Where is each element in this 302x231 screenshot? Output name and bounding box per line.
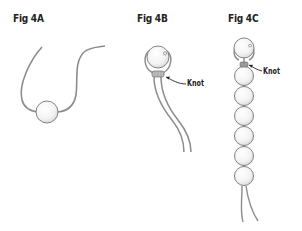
bead-icon xyxy=(36,101,58,123)
cord-strand xyxy=(241,186,243,222)
cord-strand xyxy=(154,77,184,152)
knot-icon xyxy=(240,62,248,67)
bead-icon xyxy=(235,87,254,106)
bead-icon xyxy=(147,46,169,68)
fig-4b-drawing xyxy=(145,46,191,152)
fig-4c-drawing xyxy=(234,38,262,222)
bead-icon xyxy=(235,127,254,146)
bead-icon xyxy=(235,167,254,186)
cord-strand xyxy=(161,77,191,152)
bead-icon xyxy=(235,147,254,166)
fig-4a-drawing xyxy=(21,46,105,123)
bead-icon xyxy=(235,67,254,86)
fig-4c-knot-label: Knot xyxy=(263,67,280,76)
bead-icon xyxy=(234,38,254,58)
cord xyxy=(58,46,105,112)
fig-4b-knot-label: Knot xyxy=(187,79,204,88)
cord xyxy=(21,47,42,112)
bead-diagram xyxy=(0,0,302,231)
bead-icon xyxy=(235,107,254,126)
cord-strand xyxy=(246,186,258,221)
